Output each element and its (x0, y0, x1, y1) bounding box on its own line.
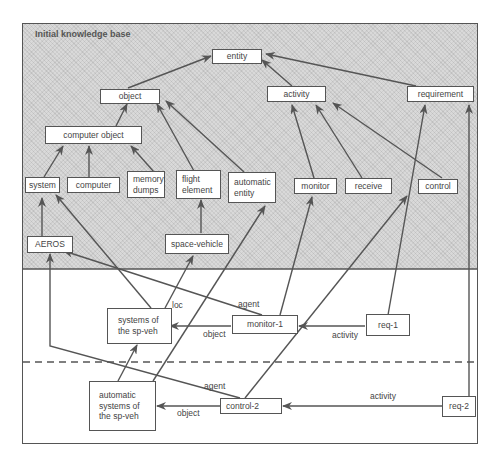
node-system[interactable]: system (25, 177, 60, 193)
edge-label-loc: loc (172, 300, 183, 310)
node-memory-dumps[interactable]: memory dumps (127, 171, 165, 198)
edge-label-object-2: object (177, 408, 200, 418)
edge-label-object-1: object (203, 329, 226, 339)
node-control[interactable]: control (418, 179, 458, 194)
node-control-2[interactable]: control-2 (220, 398, 282, 414)
node-monitor-1[interactable]: monitor-1 (232, 315, 298, 334)
node-automatic-entity[interactable]: automatic entity (228, 172, 276, 203)
node-computer-object[interactable]: computer object (45, 126, 142, 144)
node-receive[interactable]: receive (345, 178, 392, 194)
node-systems-of-sp-veh[interactable]: systems of the sp-veh (107, 308, 172, 344)
node-automatic-systems-of-sp-veh[interactable]: automatic systems of the sp-veh (89, 381, 156, 431)
knowledge-base-diagram: Initial knowledge base (0, 0, 501, 476)
edge-label-activity-1: activity (332, 330, 358, 340)
node-requirement[interactable]: requirement (407, 86, 474, 102)
node-flight-element[interactable]: flight element (176, 170, 221, 199)
node-activity[interactable]: activity (267, 86, 326, 102)
node-aeros[interactable]: AEROS (27, 236, 73, 253)
edge-label-agent-1: agent (238, 299, 259, 309)
edge-label-agent-2: agent (204, 381, 225, 391)
node-entity[interactable]: entity (212, 49, 262, 64)
node-space-vehicle[interactable]: space-vehicle (165, 234, 229, 254)
node-req-1[interactable]: req-1 (366, 314, 410, 336)
node-object[interactable]: object (100, 89, 160, 104)
edge-label-activity-2: activity (370, 391, 396, 401)
node-monitor[interactable]: monitor (294, 178, 337, 194)
node-computer[interactable]: computer (67, 177, 120, 193)
node-req-2[interactable]: req-2 (442, 396, 476, 417)
